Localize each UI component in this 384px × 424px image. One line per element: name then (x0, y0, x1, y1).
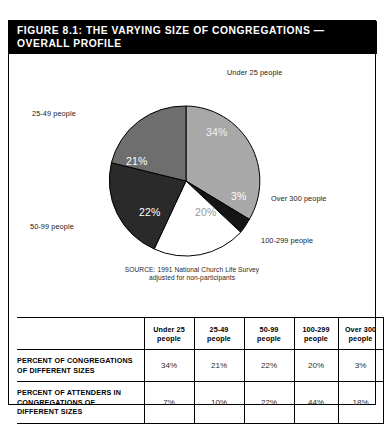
table-row: PERCENT OF ATTENDERS IN CONGREGATIONS OF… (17, 382, 383, 424)
table-header-row: Under 25 people 25-49 people 50-99 peopl… (17, 318, 383, 350)
cell-congregations-under-25: 34% (144, 350, 194, 382)
cell-congregations-100-299: 20% (294, 350, 338, 382)
row-label-percent-congregations: PERCENT OF CONGREGATIONS OF DIFFERENT SI… (17, 350, 144, 382)
table-header-50-99: 50-99 people (244, 318, 294, 350)
figure-title: FIGURE 8.1: THE VARYING SIZE OF CONGREGA… (17, 25, 377, 50)
source-note: SOURCE: 1991 National Church Life Survey… (9, 266, 375, 283)
table-header-under-25: Under 25 people (144, 318, 194, 350)
slice-value-under-25: 34% (206, 126, 228, 138)
pie-chart-svg (9, 54, 375, 266)
slice-value-over-300: 3% (231, 190, 247, 202)
cell-attenders-25-49: 10% (194, 382, 244, 424)
slice-value-25-49: 21% (126, 155, 148, 167)
cell-congregations-50-99: 22% (244, 350, 294, 382)
table-header-100-299: 100-299 people (294, 318, 338, 350)
pie-label-over-300: Over 300 people (271, 194, 326, 203)
pie-chart-area: 34% 21% 22% 20% 3% Under 25 people 25-49… (9, 54, 375, 306)
slice-value-100-299: 20% (195, 206, 217, 218)
figure-title-bar: FIGURE 8.1: THE VARYING SIZE OF CONGREGA… (9, 21, 377, 54)
table-header-blank (17, 318, 144, 350)
cell-attenders-under-25: 7% (144, 382, 194, 424)
cell-attenders-over-300: 18% (338, 382, 383, 424)
table-header-over-300: Over 300 people (338, 318, 383, 350)
data-table: Under 25 people 25-49 people 50-99 peopl… (17, 317, 384, 424)
pie-label-50-99: 50-99 people (30, 222, 74, 231)
figure-frame: FIGURE 8.1: THE VARYING SIZE OF CONGREGA… (8, 20, 376, 405)
cell-congregations-25-49: 21% (194, 350, 244, 382)
pie-label-25-49: 25-49 people (32, 109, 76, 118)
pie-label-100-299: 100-299 people (261, 236, 313, 245)
cell-attenders-100-299: 44% (294, 382, 338, 424)
slice-value-50-99: 22% (139, 206, 161, 218)
row-label-percent-attenders: PERCENT OF ATTENDERS IN CONGREGATIONS OF… (17, 382, 144, 424)
pie-label-under-25: Under 25 people (227, 68, 282, 77)
table-row: PERCENT OF CONGREGATIONS OF DIFFERENT SI… (17, 350, 383, 382)
cell-attenders-50-99: 22% (244, 382, 294, 424)
table-header-25-49: 25-49 people (194, 318, 244, 350)
cell-congregations-over-300: 3% (338, 350, 383, 382)
